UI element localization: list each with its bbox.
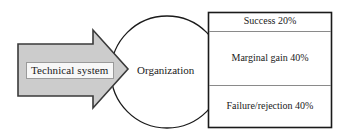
organization-label: Organization — [137, 65, 194, 76]
technical-system-label: Technical system — [26, 62, 114, 79]
outcome-row-failure-rejection: Failure/rejection 40% — [208, 101, 332, 111]
outcome-row-marginal-gain: Marginal gain 40% — [208, 53, 332, 63]
diagram-canvas: Technical system Organization Success 20… — [0, 0, 346, 140]
outcome-row-success: Success 20% — [208, 16, 332, 26]
